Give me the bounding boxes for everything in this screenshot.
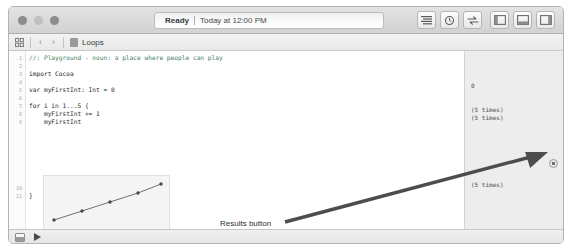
line-number: 3 bbox=[19, 72, 22, 77]
code-line: myFirstInt += 1 bbox=[29, 111, 100, 117]
line-number: 6 bbox=[19, 96, 22, 101]
status-time-text: Today at 12:00 PM bbox=[200, 16, 267, 25]
console-toggle-glyph bbox=[16, 237, 24, 241]
minimize-button[interactable] bbox=[34, 16, 43, 25]
maximize-button[interactable] bbox=[50, 16, 59, 25]
line-number: 7 bbox=[19, 104, 22, 109]
line-number: 11 bbox=[16, 194, 22, 199]
line-number: 1 bbox=[19, 56, 22, 61]
value-history-graph[interactable] bbox=[43, 175, 170, 229]
line-number: 10 bbox=[16, 186, 22, 191]
run-playground-button[interactable] bbox=[34, 233, 41, 241]
result-value: (5 times) bbox=[471, 107, 504, 113]
code-line: import Cocoa bbox=[29, 71, 74, 77]
status-divider bbox=[194, 16, 195, 25]
results-quick-look-button[interactable] bbox=[549, 159, 558, 168]
nav-forward-icon[interactable]: › bbox=[50, 38, 57, 47]
code-line: } bbox=[29, 193, 33, 199]
breadcrumb-file-label: Loops bbox=[82, 38, 104, 47]
nav-back-icon[interactable]: ‹ bbox=[37, 38, 44, 47]
code-line: myFirstInt bbox=[29, 119, 81, 125]
window-controls bbox=[18, 16, 59, 25]
line-number: 4 bbox=[19, 80, 22, 85]
code-line: //: Playground - noun: a place where peo… bbox=[29, 55, 223, 61]
toggle-navigator-panel-icon[interactable] bbox=[490, 11, 509, 29]
breadcrumb-bar: ‹ › Loops bbox=[9, 34, 563, 51]
file-icon bbox=[70, 38, 78, 47]
toggle-utilities-panel-icon[interactable] bbox=[536, 11, 555, 29]
status-state-text: Ready bbox=[165, 16, 189, 25]
version-editor-arrow-icon[interactable] bbox=[463, 11, 482, 29]
line-number: 2 bbox=[19, 64, 22, 69]
toggle-debug-panel-icon[interactable] bbox=[513, 11, 532, 29]
assistant-clock-icon[interactable] bbox=[440, 11, 459, 29]
navigator-lines-icon[interactable] bbox=[417, 11, 436, 29]
toolbar-right-group bbox=[417, 11, 555, 29]
results-sidebar: 0 (5 times) (5 times) (5 times) bbox=[464, 51, 563, 229]
breadcrumb-file-item[interactable]: Loops bbox=[70, 38, 104, 47]
result-value: 0 bbox=[471, 83, 475, 89]
results-button-glyph bbox=[552, 162, 555, 165]
result-value: (5 times) bbox=[471, 182, 504, 188]
breadcrumb-divider-2 bbox=[63, 37, 64, 48]
panel-toggle-group bbox=[490, 11, 555, 29]
code-line: for i in 1...5 { bbox=[29, 103, 89, 109]
window-titlebar: Ready Today at 12:00 PM bbox=[9, 7, 563, 34]
line-number: 5 bbox=[19, 88, 22, 93]
line-number: 9 bbox=[19, 120, 22, 125]
line-number: 8 bbox=[19, 112, 22, 117]
code-line: var myFirstInt: Int = 0 bbox=[29, 87, 115, 93]
xcode-playground-window: Ready Today at 12:00 PM bbox=[8, 6, 564, 244]
result-value: (5 times) bbox=[471, 115, 504, 121]
toggle-console-button[interactable] bbox=[15, 233, 25, 242]
breadcrumb-divider-1 bbox=[30, 37, 31, 48]
close-button[interactable] bbox=[18, 16, 27, 25]
grid-icon[interactable] bbox=[15, 33, 24, 51]
line-number-gutter: 1 2 3 4 5 6 7 8 9 10 11 bbox=[9, 51, 26, 229]
annotation-label: Results button bbox=[220, 219, 271, 228]
bottom-status-bar bbox=[9, 229, 563, 244]
status-field: Ready Today at 12:00 PM bbox=[154, 12, 384, 29]
editor-area: 1 2 3 4 5 6 7 8 9 10 11 //: Playground -… bbox=[9, 51, 563, 229]
